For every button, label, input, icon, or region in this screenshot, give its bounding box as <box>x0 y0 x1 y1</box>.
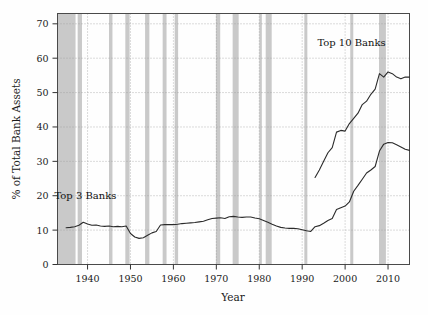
recession-band <box>163 14 167 265</box>
recession-band <box>304 14 307 265</box>
bank-concentration-line-chart: 010203040506070 194019501960197019801990… <box>0 0 428 315</box>
y-tick-label: 20 <box>36 190 48 201</box>
chart-container: 010203040506070 194019501960197019801990… <box>0 0 428 315</box>
y-tick-label: 30 <box>36 156 48 167</box>
x-tick-label: 2010 <box>376 273 400 284</box>
x-tick-label: 1960 <box>161 273 185 284</box>
annotation-top-10-banks: Top 10 Banks <box>317 37 385 48</box>
x-tick-label: 2000 <box>333 273 357 284</box>
recession-band <box>125 14 129 265</box>
recession-band <box>233 14 239 265</box>
recession-band <box>266 14 272 265</box>
recession-band <box>78 14 82 265</box>
y-tick-label: 10 <box>36 225 48 236</box>
x-tick-label: 1940 <box>75 273 99 284</box>
x-tick-label: 1980 <box>247 273 271 284</box>
y-tick-label: 0 <box>42 259 48 270</box>
x-tick-label: 1990 <box>290 273 314 284</box>
x-axis-title: Year <box>220 291 245 303</box>
y-tick-label: 70 <box>36 18 48 29</box>
recession-band <box>379 14 386 265</box>
y-tick-label: 60 <box>36 53 48 64</box>
recession-band <box>145 14 149 265</box>
x-tick-label: 1970 <box>204 273 228 284</box>
recession-band <box>259 14 262 265</box>
y-tick-label: 40 <box>36 121 48 132</box>
annotation-top-3-banks: Top 3 Banks <box>54 190 116 201</box>
recession-band <box>175 14 178 265</box>
y-tick-label: 50 <box>36 87 48 98</box>
y-axis-title: % of Total Bank Assets <box>10 78 22 199</box>
x-tick-label: 1950 <box>118 273 142 284</box>
recession-band <box>350 14 353 265</box>
